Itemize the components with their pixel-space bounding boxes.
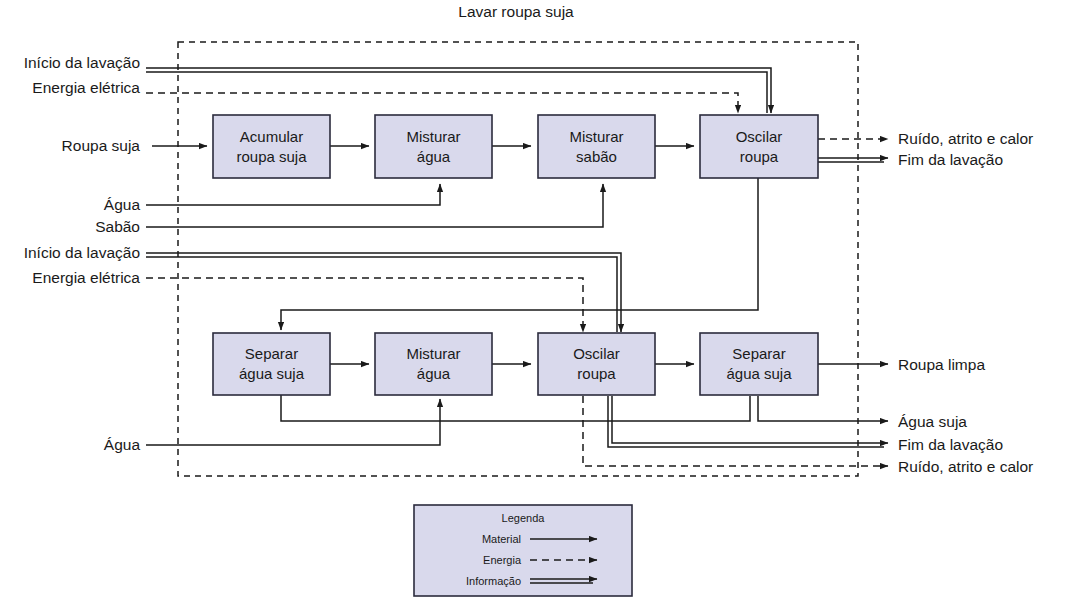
process-label-line2: água: [417, 365, 451, 382]
flow-out-ruido-bottom: [583, 396, 888, 466]
process-label-line1: Oscilar: [736, 128, 783, 145]
flow-energia-bottom: [146, 278, 583, 332]
flow-inicio-lavacao-top: [146, 68, 771, 113]
process-label-line1: Separar: [245, 345, 298, 362]
legend-title: Legenda: [502, 512, 546, 524]
process-misturar-sabao[interactable]: Misturar sabão: [538, 115, 655, 178]
process-label-line2: água: [417, 148, 451, 165]
process-label-line1: Oscilar: [573, 345, 620, 362]
process-acumular-roupa-suja[interactable]: Acumular roupa suja: [213, 115, 330, 178]
process-label-line2: sabão: [576, 148, 617, 165]
output-label-fim-lavacao-bottom: Fim da lavação: [898, 436, 1003, 453]
process-misturar-agua-top[interactable]: Misturar água: [375, 115, 492, 178]
page-title: Lavar roupa suja: [458, 3, 574, 20]
flow-energia-top: [146, 93, 738, 113]
output-label-agua-suja: Água suja: [898, 413, 967, 430]
output-label-ruido-bottom: Ruído, atrito e calor: [898, 458, 1033, 475]
input-label-sabao: Sabão: [95, 218, 140, 235]
output-label-ruido-top: Ruído, atrito e calor: [898, 130, 1033, 147]
process-label-line2: roupa suja: [236, 148, 307, 165]
flow-out-fim-lavacao-top: [818, 158, 888, 162]
legend: Legenda Material Energia Informação: [414, 505, 632, 596]
flow-oscilar-top-to-separar: [281, 178, 758, 330]
input-label-inicio-lavacao-top: Início da lavação: [24, 54, 140, 71]
flow-diagram: Lavar roupa suja: [0, 0, 1066, 609]
process-label-line1: Misturar: [569, 128, 623, 145]
legend-label-informacao: Informação: [466, 575, 521, 587]
flow-inicio-lavacao-bottom: [146, 253, 621, 332]
input-label-energia-eletrica-top: Energia elétrica: [32, 79, 140, 96]
process-separar-agua-suja-2[interactable]: Separar água suja: [700, 333, 818, 395]
system-boundary: [178, 42, 858, 476]
output-label-fim-lavacao-top: Fim da lavação: [898, 151, 1003, 168]
flow-agua-bottom: [146, 399, 440, 445]
legend-label-energia: Energia: [483, 554, 522, 566]
input-label-roupa-suja: Roupa suja: [62, 137, 141, 154]
input-label-agua-top: Água: [104, 196, 141, 213]
process-oscilar-roupa-top[interactable]: Oscilar roupa: [700, 115, 818, 178]
process-label-line1: Acumular: [240, 128, 303, 145]
process-label-line2: roupa: [740, 148, 779, 165]
process-separar-agua-suja-1[interactable]: Separar água suja: [213, 333, 330, 395]
flow-separar1-loop: [281, 395, 750, 421]
input-label-agua-bottom: Água: [104, 436, 141, 453]
process-label-line1: Misturar: [406, 345, 460, 362]
process-label-line2: água suja: [726, 365, 792, 382]
process-misturar-agua-bottom[interactable]: Misturar água: [375, 333, 492, 395]
process-label-line1: Separar: [732, 345, 785, 362]
flow-out-agua-suja: [758, 396, 888, 421]
process-label-line1: Misturar: [406, 128, 460, 145]
process-label-line2: água suja: [239, 365, 305, 382]
process-label-line2: roupa: [577, 365, 616, 382]
input-label-inicio-lavacao-bottom: Início da lavação: [24, 244, 140, 261]
legend-label-material: Material: [482, 533, 521, 545]
process-oscilar-roupa-bottom[interactable]: Oscilar roupa: [538, 333, 655, 395]
input-label-energia-eletrica-bottom: Energia elétrica: [32, 269, 140, 286]
flow-agua-top: [146, 184, 440, 205]
output-label-roupa-limpa: Roupa limpa: [898, 356, 985, 373]
